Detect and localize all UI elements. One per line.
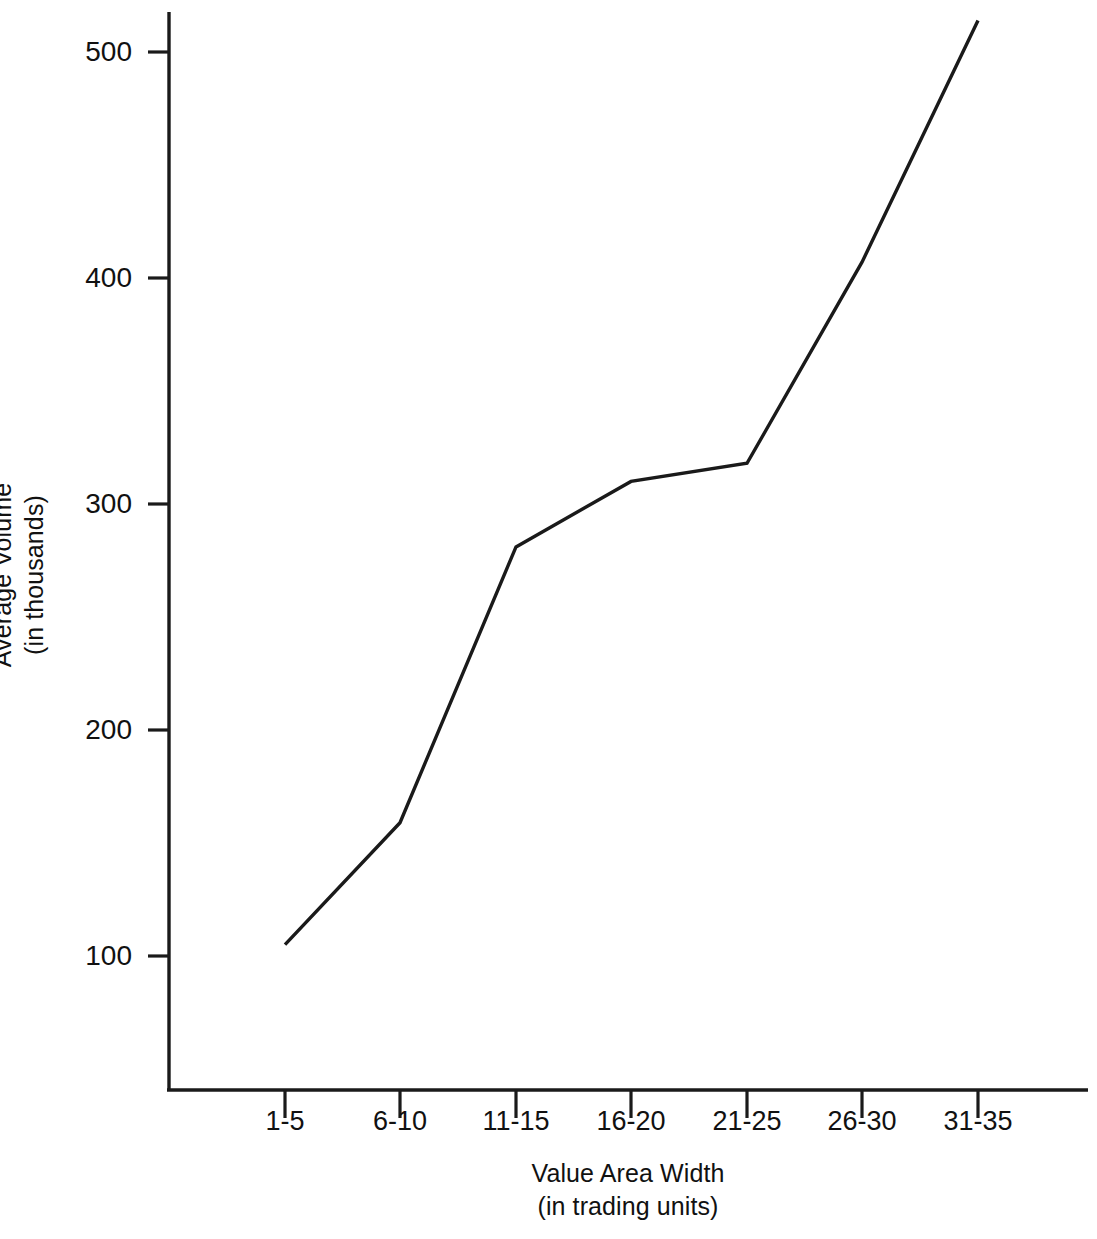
- y-tick-label-100: 100: [12, 940, 132, 972]
- y-axis-title-line1: Average Volume: [0, 483, 18, 667]
- line-chart-plot: [0, 0, 1097, 1239]
- chart-figure: 500 400 300 200 100 1-5 6-10 11-15 16-20…: [0, 0, 1097, 1239]
- y-tick-label-500: 500: [12, 36, 132, 68]
- y-axis-title: Average Volume (in thousands): [0, 405, 53, 745]
- x-axis-title-line1: Value Area Width: [168, 1157, 1088, 1190]
- data-series-line: [285, 20, 978, 944]
- y-tick-label-400: 400: [12, 262, 132, 294]
- x-axis-title: Value Area Width (in trading units): [168, 1157, 1088, 1222]
- x-tick-label-31-35: 31-35: [898, 1106, 1058, 1137]
- y-axis-ticks: [148, 52, 169, 956]
- y-axis-title-line2: (in thousands): [18, 495, 50, 655]
- x-axis-title-line2: (in trading units): [168, 1190, 1088, 1223]
